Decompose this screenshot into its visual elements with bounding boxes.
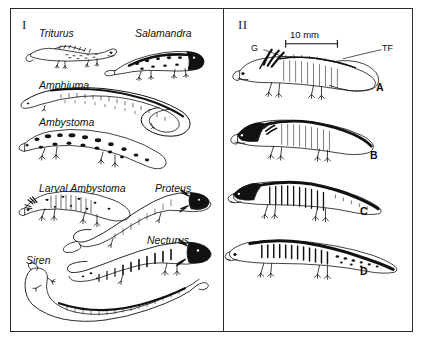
panel-numeral-two: II (238, 17, 248, 33)
taxon-label-ambystoma: Ambystoma (39, 116, 94, 128)
panel-one: I (11, 9, 223, 331)
scale-bar-label: 10 mm (290, 29, 319, 40)
stage-label-b: B (370, 149, 378, 161)
stage-label-c: C (360, 205, 368, 217)
stage-label-d: D (360, 265, 368, 277)
taxon-label-larval-ambystoma: Larval Ambystoma (39, 182, 126, 194)
annotation-label-gills: G (251, 43, 258, 53)
panel-one-artwork (11, 9, 223, 331)
taxon-label-siren: Siren (26, 254, 51, 266)
figure-plate: I (10, 8, 413, 332)
panel-numeral-one: I (22, 17, 27, 33)
stage-label-a: A (376, 81, 384, 93)
annotation-label-tail-fin: TF (382, 43, 393, 53)
panel-two: II (223, 9, 412, 331)
taxon-label-amphiuma: Amphiuma (39, 79, 89, 91)
taxon-label-proteus: Proteus (155, 182, 191, 194)
taxon-label-salamandra: Salamandra (135, 27, 192, 39)
taxon-label-triturus: Triturus (39, 27, 74, 39)
panel-two-artwork (224, 9, 412, 331)
taxon-label-necturus: Necturus (147, 234, 189, 246)
